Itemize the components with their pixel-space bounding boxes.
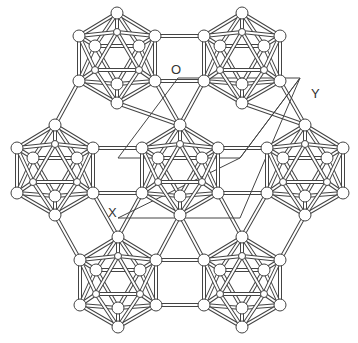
icosahedron-middle-right: [261, 119, 349, 221]
icosahedron-top-left: [73, 7, 161, 109]
icosahedron-bottom-left: [74, 231, 162, 333]
icosahedral-lattice-diagram: OYX: [0, 0, 358, 343]
icosahedron-top-right: [198, 7, 286, 109]
icosahedron-middle-left: [11, 119, 99, 221]
axis-label-o: O: [171, 62, 181, 77]
icosahedron-middle-center: [136, 119, 224, 221]
axis-label-y: Y: [311, 86, 320, 101]
icosahedron-bottom-right: [198, 231, 286, 333]
lattice-drawing: [0, 0, 358, 343]
axis-label-x: X: [108, 205, 117, 220]
